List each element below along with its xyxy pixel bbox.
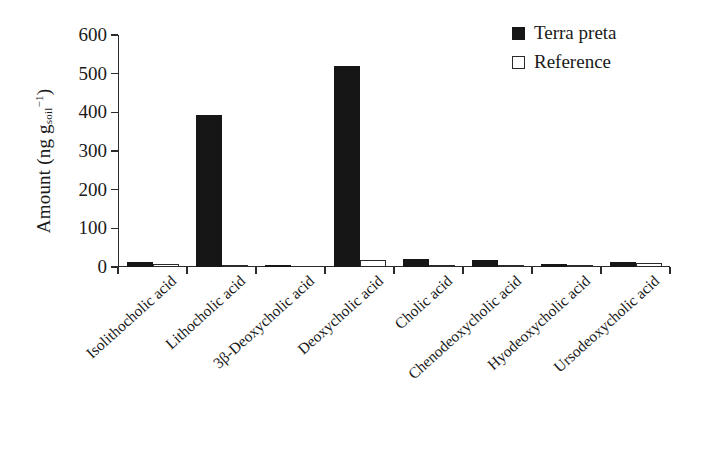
chart-legend: Terra pretaReference	[512, 22, 617, 80]
y-axis-tick-label: 100	[79, 217, 108, 239]
x-axis-labels: Isolithocholic acidLithocholic acid3β-De…	[118, 272, 670, 462]
y-axis-tick	[111, 189, 118, 190]
y-axis-title: Amount (ng gsoil−1)	[33, 41, 55, 281]
y-axis-tick	[111, 150, 118, 151]
legend-item[interactable]: Terra preta	[512, 22, 617, 44]
legend-swatch-open-icon	[512, 56, 525, 69]
x-axis-label-text: Isolithocholic acid	[82, 272, 179, 362]
y-axis-title-suffix: )	[33, 89, 54, 96]
y-axis-tick-label: 500	[79, 62, 108, 84]
y-axis-tick-label: 200	[79, 178, 108, 200]
y-axis-tick	[111, 112, 118, 113]
y-axis-tick	[111, 228, 118, 229]
y-axis-tick-label: 400	[79, 101, 108, 123]
y-axis-tick-label: 300	[79, 140, 108, 162]
y-axis-tick	[111, 73, 118, 74]
y-axis-title-superscript: −1	[33, 95, 45, 107]
bar-terra-preta	[127, 262, 153, 267]
legend-swatch-filled-icon	[512, 27, 525, 40]
legend-item[interactable]: Reference	[512, 51, 617, 73]
legend-item-label: Terra preta	[534, 22, 617, 44]
y-axis-title-subscript: soil	[42, 107, 54, 124]
y-axis-tick	[111, 34, 118, 35]
y-axis-tick-label: 600	[79, 24, 108, 46]
legend-item-label: Reference	[534, 51, 611, 73]
bar-chart: Amount (ng gsoil−1) 0100200300400500600 …	[0, 0, 704, 462]
x-axis-label-text: Cholic acid	[391, 272, 456, 333]
y-axis-tick-label: 0	[98, 256, 108, 278]
x-axis-label-text: Chenodeoxycholic acid	[404, 272, 524, 383]
y-axis-title-prefix: Amount (ng g	[33, 124, 54, 233]
bar-group	[118, 35, 187, 267]
